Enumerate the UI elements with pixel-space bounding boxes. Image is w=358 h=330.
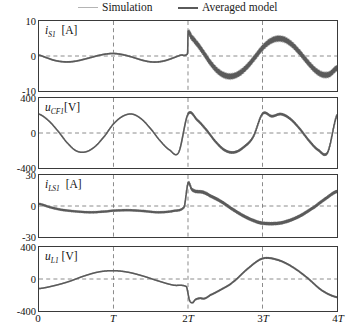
signal-subscript-is1: S1 xyxy=(48,30,56,39)
waveform-canvas-is1 xyxy=(39,21,337,91)
ytick-label-is1-top: 10 xyxy=(26,17,37,26)
xtick-label-4T: 4T xyxy=(332,312,344,324)
signal-label-is1: iS1 [A] xyxy=(45,24,77,41)
plot-area-ils1 xyxy=(39,175,337,237)
xtick-label-2T: 2T xyxy=(182,312,194,324)
signal-subscript-ul1: L1 xyxy=(51,256,59,265)
signal-unit-ucf1: [V] xyxy=(64,101,80,113)
signal-subscript-ucf1: CF1 xyxy=(51,107,64,116)
xtick-label-3T: 3T xyxy=(257,312,269,324)
signal-subscript-ils1: LS1 xyxy=(48,184,60,193)
plot-panel-ils1: iLS1 [A] 30 0 -30 xyxy=(38,174,338,238)
legend-line-simulation-icon xyxy=(78,7,98,8)
plot-area-ucf1 xyxy=(39,98,337,168)
legend: Simulation Averaged model xyxy=(0,2,358,16)
ytick-label-ucf1-mid: 0 xyxy=(31,129,36,138)
ytick-label-ul1-bottom: -400 xyxy=(17,307,36,316)
waveform-canvas-ucf1 xyxy=(39,98,337,168)
plot-panel-is1: iS1 [A] 10 0 -10 xyxy=(38,20,338,92)
legend-item-averaged-model: Averaged model xyxy=(178,2,277,13)
ytick-label-is1-mid: 0 xyxy=(31,52,36,61)
figure-multi-panel-waveforms: Simulation Averaged model iS1 [A] 10 0 -… xyxy=(0,0,358,330)
signal-unit-ul1: [V] xyxy=(62,250,78,262)
waveform-canvas-ils1 xyxy=(39,175,337,237)
signal-unit-ils1: [A] xyxy=(66,178,82,190)
ytick-label-ucf1-top: 400 xyxy=(20,94,36,103)
legend-line-averaged-model-icon xyxy=(178,7,198,9)
signal-label-ils1: iLS1 [A] xyxy=(45,178,82,195)
plot-area-is1 xyxy=(39,21,337,91)
signal-unit-is1: [A] xyxy=(61,24,77,36)
ytick-label-ils1-top: 30 xyxy=(26,171,37,180)
signal-label-ul1: uL1 [V] xyxy=(45,250,78,267)
legend-label-simulation: Simulation xyxy=(102,2,152,13)
plot-panel-ul1: uL1 [V] 400 0 -400 xyxy=(38,246,338,312)
xtick-label-0: 0 xyxy=(35,312,41,324)
xtick-label-T: T xyxy=(110,312,116,324)
legend-label-averaged-model: Averaged model xyxy=(202,2,277,13)
plot-area-ul1 xyxy=(39,247,337,311)
ytick-label-ils1-bottom: -30 xyxy=(22,233,36,242)
plot-panel-ucf1: uCF1[V] 400 0 -400 xyxy=(38,97,338,169)
ytick-label-ul1-top: 400 xyxy=(20,243,36,252)
ytick-label-ul1-mid: 0 xyxy=(31,275,36,284)
x-axis-ticks: 0 T 2T 3T 4T xyxy=(38,312,338,326)
legend-item-simulation: Simulation xyxy=(78,2,152,13)
waveform-canvas-ul1 xyxy=(39,247,337,311)
signal-label-ucf1: uCF1[V] xyxy=(45,101,80,118)
ytick-label-ils1-mid: 0 xyxy=(31,202,36,211)
